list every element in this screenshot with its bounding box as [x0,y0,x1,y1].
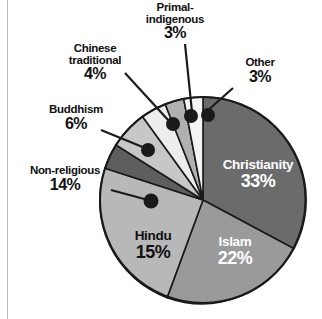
marker-dot-chinese-traditional [166,117,180,131]
marker-dot-non-religious [144,194,159,209]
slice-label-christianity: Christianity 33% [212,158,304,190]
slice-label-chinese-traditional-name-line1: Chinese [55,43,135,55]
slice-label-hindu-percent: 15% [122,243,184,261]
slice-label-buddhism-percent: 6% [34,116,118,132]
marker-dot-buddhism [141,143,155,157]
slice-label-buddhism-name: Buddhism [34,104,118,116]
slice-label-primal-indigenous: Primal- indigenous 3% [132,2,218,42]
slice-label-christianity-name: Christianity [212,158,304,172]
slice-label-other: Other 3% [232,57,288,85]
slice-label-non-religious-percent: 14% [6,177,124,193]
marker-dot-primal-indigenous [184,109,198,123]
slice-label-islam-name: Islam [204,235,266,249]
marker-dot-other [201,108,215,122]
slice-label-hindu-name: Hindu [122,229,184,243]
slice-label-islam-percent: 22% [204,249,266,267]
slice-label-primal-indigenous-name-line1: Primal- [132,2,218,14]
slice-label-other-percent: 3% [232,69,288,85]
slice-label-chinese-traditional-percent: 4% [55,66,135,82]
slice-label-christianity-percent: 33% [212,172,304,190]
slice-label-islam: Islam 22% [204,235,266,267]
slice-label-hindu: Hindu 15% [122,229,184,261]
slice-label-non-religious: Non-religious 14% [6,165,124,193]
slice-label-primal-indigenous-percent: 3% [132,25,218,41]
pie-chart-figure: Primal- indigenous 3% Chinese traditiona… [0,0,322,319]
slice-label-chinese-traditional: Chinese traditional 4% [55,43,135,83]
slice-label-buddhism: Buddhism 6% [34,104,118,132]
slice-label-other-name: Other [232,57,288,69]
slice-label-non-religious-name: Non-religious [6,165,124,177]
